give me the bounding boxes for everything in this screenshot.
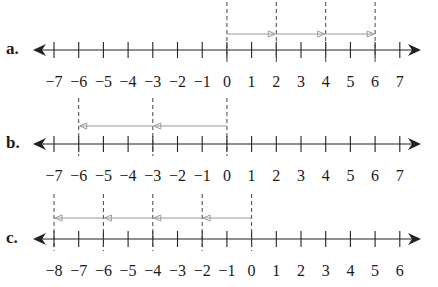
tick-label: −3 (169, 262, 186, 280)
tick-label: −3 (144, 73, 161, 91)
tick-label: 6 (396, 262, 404, 280)
tick-label: −7 (45, 167, 62, 185)
tick-label: 2 (272, 73, 280, 91)
tick-label: −1 (194, 167, 211, 185)
tick-label: −1 (194, 73, 211, 91)
tick-label: 0 (223, 167, 231, 185)
tick-label: −6 (70, 167, 87, 185)
tick-label: 4 (322, 167, 330, 185)
tick-label: −4 (144, 262, 161, 280)
tick-label: −7 (45, 73, 62, 91)
tick-label: 5 (371, 262, 379, 280)
tick-label: −2 (169, 73, 186, 91)
tick-label: −5 (120, 262, 137, 280)
tick-label: −2 (194, 262, 211, 280)
tick-label: −1 (218, 262, 235, 280)
tick-label: 5 (346, 73, 354, 91)
tick-label: 4 (346, 262, 354, 280)
tick-label: 0 (248, 262, 256, 280)
tick-label: 2 (297, 262, 305, 280)
number-lines-graphic (0, 0, 438, 287)
tick-label: 6 (371, 73, 379, 91)
tick-label: −6 (95, 262, 112, 280)
problem-label-b: b. (6, 133, 20, 153)
tick-label: −5 (95, 73, 112, 91)
number-line-diagram: a. b. c. −7−6−5−4−3−2−101234567 −7−6−5−4… (0, 0, 438, 287)
tick-label: 7 (396, 73, 404, 91)
tick-label: 1 (248, 167, 256, 185)
tick-label: −7 (70, 262, 87, 280)
tick-label: −8 (45, 262, 62, 280)
tick-label: 5 (346, 167, 354, 185)
tick-label: −4 (120, 73, 137, 91)
tick-label: 0 (223, 73, 231, 91)
tick-label: 3 (322, 262, 330, 280)
problem-label-c: c. (6, 228, 18, 248)
tick-label: 3 (297, 167, 305, 185)
tick-label: 6 (371, 167, 379, 185)
tick-label: −3 (144, 167, 161, 185)
tick-label: 7 (396, 167, 404, 185)
problem-label-a: a. (6, 39, 19, 59)
tick-label: −4 (120, 167, 137, 185)
tick-label: 4 (322, 73, 330, 91)
tick-label: −5 (95, 167, 112, 185)
tick-label: 2 (272, 167, 280, 185)
tick-label: −2 (169, 167, 186, 185)
tick-label: 1 (272, 262, 280, 280)
tick-label: 1 (248, 73, 256, 91)
tick-label: −6 (70, 73, 87, 91)
tick-label: 3 (297, 73, 305, 91)
